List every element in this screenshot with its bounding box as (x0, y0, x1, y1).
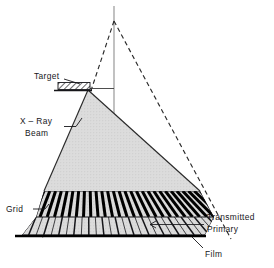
diagram-canvas: Target X – Ray Beam Grid Transmitted Pri… (0, 0, 274, 268)
grid-slat (96, 191, 98, 217)
film-label: Film (205, 249, 222, 259)
xray-grid-diagram: Target X – Ray Beam Grid Transmitted Pri… (0, 0, 274, 268)
xray-beam-label-line1: X – Ray (20, 116, 53, 126)
primary-label: Primary (207, 224, 239, 234)
target-label: Target (34, 71, 60, 81)
grid-slat (84, 191, 85, 217)
transmitted-label: Transmitted (207, 212, 255, 222)
xray-beam-label-line2: Beam (25, 128, 48, 138)
transmitted-primary-band (22, 217, 232, 235)
target-block (58, 83, 90, 90)
grid-slat (90, 191, 91, 217)
grid-band (33, 191, 229, 217)
grid-label: Grid (6, 204, 23, 214)
